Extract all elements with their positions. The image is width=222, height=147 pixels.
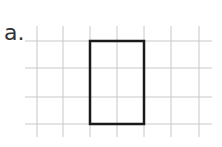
grid-diagram: [0, 0, 222, 147]
grid-lines: [25, 26, 212, 137]
